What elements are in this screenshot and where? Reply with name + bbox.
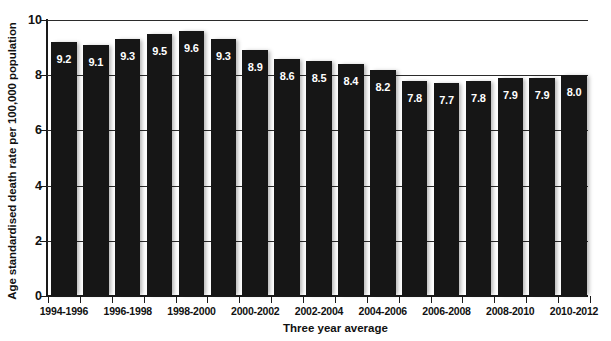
bar-series: 9.29.19.39.59.69.38.98.68.58.48.27.87.77…: [46, 20, 588, 296]
bar-value-label: 9.6: [179, 42, 205, 54]
bar-value-label: 7.7: [434, 94, 460, 106]
x-axis-tick-mark: [207, 296, 208, 303]
x-axis-tick-label: 2002-2004: [295, 305, 343, 317]
bar[interactable]: 9.3: [115, 39, 141, 296]
x-axis-tick-mark: [176, 296, 177, 303]
bar[interactable]: 9.3: [211, 39, 237, 296]
bar-value-label: 7.9: [498, 89, 524, 101]
y-axis-tick-label: 10: [2, 13, 42, 27]
y-axis-tick-label: 0: [2, 289, 42, 303]
y-axis-tick-label: 8: [2, 68, 42, 82]
x-axis-tick-label: 1996-1998: [103, 305, 151, 317]
bar-value-label: 9.3: [211, 50, 237, 62]
x-axis-tick-label: 2008-2010: [486, 305, 534, 317]
x-axis-tick-label: 1994-1996: [40, 305, 88, 317]
bar-value-label: 9.3: [115, 50, 141, 62]
bar[interactable]: 8.5: [306, 61, 332, 296]
bar-chart: Age standardised death rate per 100,000 …: [0, 0, 611, 341]
x-axis-tick-mark: [494, 296, 495, 303]
x-axis-tick-mark: [367, 296, 368, 303]
x-axis-tick-mark: [239, 296, 240, 303]
x-axis-tick-mark: [431, 296, 432, 303]
x-axis-tick-label: 2010-2012: [550, 305, 598, 317]
x-axis-tick-mark: [303, 296, 304, 303]
bar-value-label: 8.5: [306, 72, 332, 84]
x-axis-ticks: [46, 296, 588, 304]
x-axis-tick-mark: [462, 296, 463, 303]
bar[interactable]: 8.0: [561, 75, 587, 296]
bar[interactable]: 8.9: [242, 50, 268, 296]
y-axis-tick-label: 6: [2, 123, 42, 137]
bar-value-label: 9.5: [147, 45, 173, 57]
x-axis-tick-mark: [271, 296, 272, 303]
bar-value-label: 8.9: [242, 61, 268, 73]
bar-value-label: 7.9: [529, 89, 555, 101]
bar-value-label: 8.6: [274, 70, 300, 82]
bar[interactable]: 9.5: [147, 34, 173, 296]
bar[interactable]: 7.7: [434, 83, 460, 296]
x-axis-tick-mark: [558, 296, 559, 303]
x-axis-tick-mark: [526, 296, 527, 303]
bar-value-label: 7.8: [466, 92, 492, 104]
bar[interactable]: 9.1: [83, 45, 109, 296]
bar[interactable]: 7.9: [498, 78, 524, 296]
x-axis-tick-mark: [112, 296, 113, 303]
x-axis-tick-label: 2000-2002: [231, 305, 279, 317]
x-axis-tick-label: 2004-2006: [359, 305, 407, 317]
x-axis-tick-mark: [399, 296, 400, 303]
y-axis-tick-labels: 1086420: [0, 20, 42, 296]
x-axis-tick-mark: [144, 296, 145, 303]
bar-value-label: 8.2: [370, 81, 396, 93]
x-axis-tick-mark: [335, 296, 336, 303]
bar-value-label: 8.4: [338, 75, 364, 87]
x-axis-title: Three year average: [0, 322, 611, 334]
x-axis-tick-labels: 1994-19961996-19981998-20002000-20022002…: [46, 305, 588, 321]
bar[interactable]: 9.2: [51, 42, 77, 296]
bar[interactable]: 8.4: [338, 64, 364, 296]
bar[interactable]: 8.6: [274, 59, 300, 296]
bar-value-label: 7.8: [402, 92, 428, 104]
bar-value-label: 9.2: [51, 53, 77, 65]
bar[interactable]: 8.2: [370, 70, 396, 296]
x-axis-tick-label: 2006-2008: [422, 305, 470, 317]
bar[interactable]: 9.6: [179, 31, 205, 296]
x-axis-tick-label: 1998-2000: [167, 305, 215, 317]
bar[interactable]: 7.8: [402, 81, 428, 296]
bar[interactable]: 7.8: [466, 81, 492, 296]
bar-value-label: 8.0: [561, 86, 587, 98]
x-axis-tick-mark: [590, 296, 591, 303]
y-axis-tick-label: 2: [2, 234, 42, 248]
plot-area: 9.29.19.39.59.69.38.98.68.58.48.27.87.77…: [46, 20, 588, 296]
bar[interactable]: 7.9: [529, 78, 555, 296]
bar-value-label: 9.1: [83, 56, 109, 68]
x-axis-tick-mark: [80, 296, 81, 303]
x-axis-tick-mark: [48, 296, 49, 303]
y-axis-tick-label: 4: [2, 179, 42, 193]
